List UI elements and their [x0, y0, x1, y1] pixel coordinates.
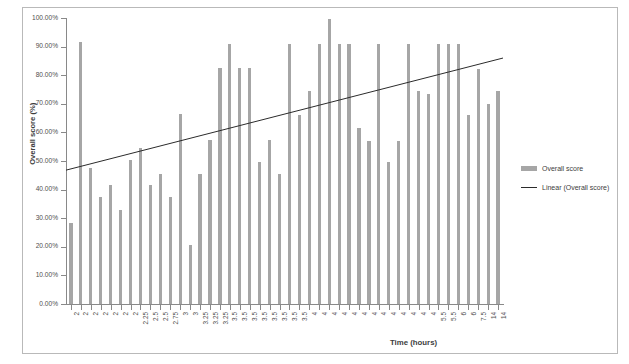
x-axis-tick — [478, 305, 479, 310]
legend-item-linear-overall-score: Linear (Overall score) — [521, 182, 621, 192]
x-axis-tick-label: 4 — [401, 312, 407, 316]
x-axis-tick — [389, 305, 390, 310]
y-axis-tick-label: 100.00% — [16, 15, 58, 22]
x-axis-title: Time (hours) — [390, 339, 437, 347]
x-axis-tick-label: 3.5 — [302, 312, 308, 321]
x-axis-tick — [289, 305, 290, 310]
x-axis-tick-label: 3.25 — [203, 312, 209, 324]
x-axis-tick — [180, 305, 181, 310]
x-axis-tick — [170, 305, 171, 310]
x-axis-tick — [349, 305, 350, 310]
x-axis-tick-label: 6 — [471, 312, 477, 316]
x-axis-tick-label: 2 — [83, 312, 89, 316]
x-axis-tick — [160, 305, 161, 310]
x-axis-tick — [220, 305, 221, 310]
x-axis-tick-label: 3.5 — [282, 312, 288, 321]
x-axis-tick-label: 2.25 — [143, 312, 149, 324]
x-axis-tick-label: 3.5 — [292, 312, 298, 321]
x-axis-tick-label: 2 — [93, 312, 99, 316]
x-axis-tick-label: 4 — [352, 312, 358, 316]
x-axis-tick — [329, 305, 330, 310]
x-axis-tick-label: 3.5 — [232, 312, 238, 321]
x-axis-tick — [111, 305, 112, 310]
x-axis-tick-label: 2 — [123, 312, 129, 316]
x-axis-tick-label: 3.5 — [252, 312, 258, 321]
x-axis-tick — [419, 305, 420, 310]
y-axis-tick-label: 50.00% — [16, 158, 58, 165]
y-axis-tick-label: 0.00% — [16, 301, 58, 308]
x-axis-tick — [91, 305, 92, 310]
chart-figure: Overall score (%) 0.00%10.00%20.00%30.00… — [0, 0, 629, 364]
x-axis-tick — [498, 305, 499, 310]
legend-label-linear-overall-score: Linear (Overall score) — [542, 184, 609, 191]
x-axis-tick-label: 4 — [381, 312, 387, 316]
y-axis-tick-label: 90.00% — [16, 43, 58, 50]
x-axis-tick-label: 14 — [501, 312, 507, 319]
x-axis-tick-label: 2 — [74, 312, 80, 316]
x-axis-tick-label: 3 — [183, 312, 189, 316]
x-axis-tick-label: 3 — [193, 312, 199, 316]
line-swatch-icon — [521, 187, 537, 188]
x-axis-tick — [260, 305, 261, 310]
x-axis-tick — [280, 305, 281, 310]
x-axis-tick — [438, 305, 439, 310]
x-axis-tick — [200, 305, 201, 310]
x-axis-tick-label: 4 — [322, 312, 328, 316]
x-axis-tick-label: 4 — [391, 312, 397, 316]
x-axis-tick-label: 3.5 — [272, 312, 278, 321]
x-axis-tick-label: 3.5 — [242, 312, 248, 321]
x-axis-tick — [468, 305, 469, 310]
x-axis-tick-label: 2 — [133, 312, 139, 316]
x-axis-tick-label: 2.75 — [173, 312, 179, 324]
x-axis-tick — [71, 305, 72, 310]
x-axis-tick — [379, 305, 380, 310]
x-axis-tick-label: 4 — [312, 312, 318, 316]
x-axis-tick-label: 2.5 — [163, 312, 169, 321]
x-axis-tick — [131, 305, 132, 310]
x-axis-tick-label: 5.5 — [441, 312, 447, 321]
x-axis-tick — [140, 305, 141, 310]
x-axis-tick-label: 4 — [411, 312, 417, 316]
x-axis-tick-label: 14 — [491, 312, 497, 319]
x-axis-tick — [210, 305, 211, 310]
x-axis-tick — [319, 305, 320, 310]
x-axis-tick — [488, 305, 489, 310]
x-axis-tick-label: 3.25 — [223, 312, 229, 324]
x-axis-tick — [150, 305, 151, 310]
x-axis-tick — [121, 305, 122, 310]
y-axis-tick-label: 10.00% — [16, 272, 58, 279]
plot-area — [66, 18, 503, 304]
x-axis-tick-label: 6 — [461, 312, 467, 316]
chart-legend: Overall score Linear (Overall score) — [521, 163, 621, 201]
x-axis-tick-label: 4 — [342, 312, 348, 316]
y-axis-tick-label: 40.00% — [16, 186, 58, 193]
x-axis-tick — [429, 305, 430, 310]
x-axis-tick — [359, 305, 360, 310]
x-axis-tick — [458, 305, 459, 310]
x-axis-tick — [270, 305, 271, 310]
x-axis-tick-label: 4 — [332, 312, 338, 316]
y-axis-tick-label: 70.00% — [16, 100, 58, 107]
x-axis-tick — [399, 305, 400, 310]
x-axis-tick — [190, 305, 191, 310]
y-axis-tick-label: 60.00% — [16, 129, 58, 136]
x-axis-tick-label: 2 — [113, 312, 119, 316]
bar-swatch-icon — [521, 166, 537, 171]
x-axis-tick — [240, 305, 241, 310]
x-axis-tick — [230, 305, 231, 310]
x-axis-tick — [339, 305, 340, 310]
x-axis-tick-label: 4 — [431, 312, 437, 316]
x-axis-tick-label: 5.5 — [451, 312, 457, 321]
x-axis-tick-label: 2 — [103, 312, 109, 316]
x-axis-tick-label: 3.5 — [262, 312, 268, 321]
x-axis-tick — [409, 305, 410, 310]
x-axis-tick-label: 4 — [372, 312, 378, 316]
x-axis-tick — [101, 305, 102, 310]
x-axis-tick — [299, 305, 300, 310]
x-axis-tick — [250, 305, 251, 310]
legend-item-overall-score: Overall score — [521, 163, 621, 173]
x-axis-tick-label: 7.5 — [481, 312, 487, 321]
legend-label-overall-score: Overall score — [542, 165, 583, 172]
x-axis-tick — [369, 305, 370, 310]
x-axis-tick-label: 4 — [362, 312, 368, 316]
